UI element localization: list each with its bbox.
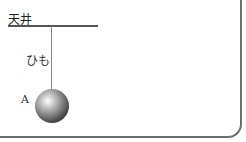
string-label: ひも [26,51,50,68]
ball-a [35,89,69,123]
ceiling-line [8,25,98,27]
string-line [51,26,52,90]
ball-label: A [21,93,29,106]
panel-frame [0,0,242,138]
